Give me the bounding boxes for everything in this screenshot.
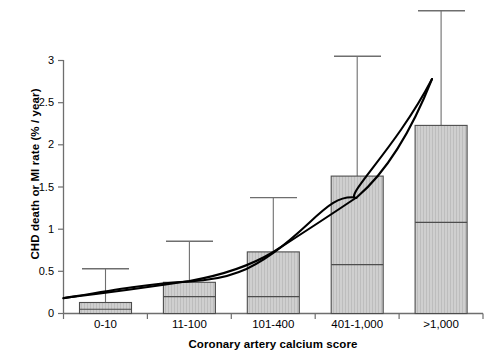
x-tick-label-2: 101-400 xyxy=(252,318,294,330)
y-axis-ticks xyxy=(58,61,64,314)
bar-rect xyxy=(415,125,467,313)
x-axis-title: Coronary artery calcium score xyxy=(63,338,483,350)
x-tick-label-0: 0-10 xyxy=(94,318,117,330)
chart-figure: 0 0.5 1 1.5 2 2.5 3 xyxy=(0,0,494,363)
bar-group-101-400[interactable] xyxy=(247,198,299,314)
bar-group-over-1000[interactable] xyxy=(415,11,467,314)
plot-area xyxy=(0,0,494,363)
bar-rect xyxy=(80,303,132,314)
bar-rect xyxy=(163,282,215,313)
x-tick-label-4: >1,000 xyxy=(423,318,459,330)
y-axis-title: CHD death or MI rate (% / year) xyxy=(29,44,41,304)
bar-group-401-1000[interactable] xyxy=(331,56,383,313)
x-tick-label-3: 401-1,000 xyxy=(331,318,383,330)
x-tick-label-1: 11-100 xyxy=(172,318,207,330)
